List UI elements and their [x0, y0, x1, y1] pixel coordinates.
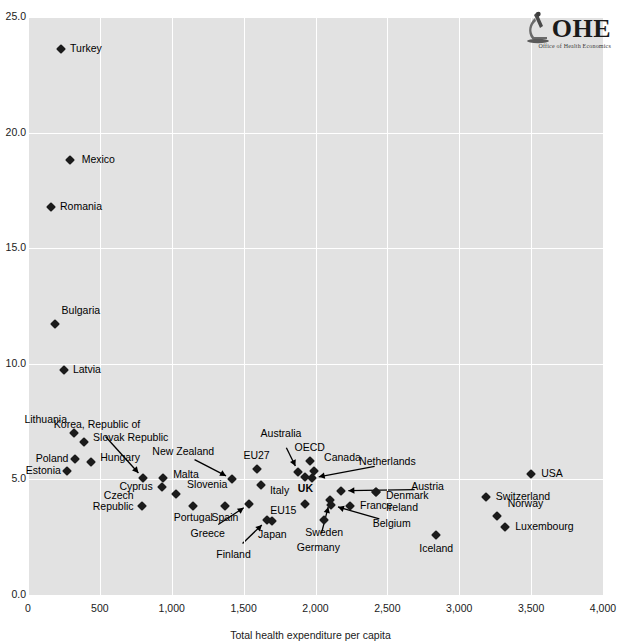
gridline-vertical: [316, 17, 317, 595]
data-point-label: New Zealand: [152, 446, 214, 458]
y-axis-tick-label: 10.0: [0, 358, 26, 369]
gridline-vertical: [28, 17, 29, 595]
data-point-marker: [56, 44, 66, 54]
gridline-horizontal: [28, 479, 603, 480]
x-axis-tick-label: 3,500: [501, 603, 561, 614]
data-point-label: Sweden: [305, 527, 343, 539]
data-point-marker: [65, 155, 75, 165]
x-axis-tick-label: 4,000: [573, 603, 621, 614]
data-point-label: Belgium: [373, 519, 411, 531]
data-point-marker: [267, 516, 277, 526]
x-axis-title: Total health expenditure per capita: [0, 629, 621, 641]
x-axis-tick-label: 1,000: [142, 603, 202, 614]
data-point-label: Spain: [212, 512, 239, 524]
data-point-label: Turkey: [70, 44, 102, 56]
label-leader-arrowhead: [319, 472, 326, 478]
gridline-horizontal: [28, 248, 603, 249]
gridline-vertical: [244, 17, 245, 595]
x-axis-tick-label: 2,500: [357, 603, 417, 614]
data-point-label: Denmark: [386, 490, 429, 502]
ohe-logo: OHE Office of Health Economics: [523, 6, 615, 50]
data-point-label: Ireland: [386, 502, 418, 514]
y-axis-tick-label: 0.0: [0, 589, 26, 600]
data-point-marker: [188, 501, 198, 511]
data-point-label: Mexico: [82, 155, 115, 167]
data-point-marker: [59, 365, 69, 375]
label-leader-line: [195, 460, 226, 476]
y-axis-tick-label: 20.0: [0, 127, 26, 138]
data-point-marker: [481, 492, 491, 502]
label-leader-arrowhead: [290, 459, 296, 466]
x-axis-tick-label: 3,000: [429, 603, 489, 614]
data-point-marker: [70, 454, 80, 464]
gridline-vertical: [459, 17, 460, 595]
data-point-label: USA: [541, 468, 563, 480]
label-leader-arrowhead: [348, 487, 354, 493]
data-point-label: EU27: [243, 450, 269, 462]
data-point-label: Australia: [261, 429, 302, 441]
data-point-label: Slovenia: [187, 480, 227, 492]
data-point-marker: [137, 501, 147, 511]
data-point-marker: [345, 501, 355, 511]
label-leader-line: [319, 466, 375, 476]
data-point-marker: [305, 456, 315, 466]
data-point-label: Latvia: [73, 364, 101, 376]
logo-wordmark: OHE: [552, 16, 611, 42]
gridline-horizontal: [28, 595, 603, 596]
data-point-label: Norway: [508, 499, 544, 511]
data-point-marker: [326, 500, 336, 510]
data-point-label: CzechRepublic: [93, 489, 134, 512]
data-point-label: Netherlands: [359, 456, 416, 468]
data-point-label: UK: [298, 483, 313, 495]
data-point-label: Bulgaria: [62, 306, 101, 318]
label-leader-arrowhead: [219, 470, 226, 476]
data-point-marker: [492, 511, 502, 521]
logo-subtitle: Office of Health Economics: [538, 43, 611, 49]
data-point-label: Portugal: [174, 512, 213, 524]
data-point-marker: [62, 466, 72, 476]
gridline-horizontal: [28, 133, 603, 134]
data-point-marker: [220, 501, 230, 511]
data-point-label: Italy: [270, 485, 289, 497]
x-axis-tick-label: 2,000: [286, 603, 346, 614]
gridline-horizontal: [28, 17, 603, 18]
data-point-label: Luxembourg: [515, 521, 573, 533]
data-point-label-line: Republic: [93, 501, 134, 513]
gridline-vertical: [172, 17, 173, 595]
data-point-label: Germany: [297, 542, 340, 554]
data-point-label: Japan: [258, 529, 287, 541]
label-leader-arrowhead: [338, 506, 345, 512]
data-point-marker: [50, 320, 60, 330]
x-axis-tick-label: 500: [70, 603, 130, 614]
data-point-marker: [500, 522, 510, 532]
label-leader-arrowhead: [132, 466, 138, 473]
data-point-marker: [79, 437, 89, 447]
gridline-vertical: [603, 17, 604, 595]
data-point-label: OECD: [295, 442, 325, 454]
data-point-marker: [319, 515, 329, 525]
data-point-marker: [252, 464, 262, 474]
data-point-marker: [158, 473, 168, 483]
y-axis-tick-label: 15.0: [0, 242, 26, 253]
y-axis-tick-label: 25.0: [0, 11, 26, 22]
data-point-label-line: Czech: [93, 489, 134, 501]
data-point-label: EU15: [270, 505, 296, 517]
data-point-marker: [431, 530, 441, 540]
microscope-icon: [523, 10, 553, 44]
data-point-label: Hungary: [100, 452, 140, 464]
data-point-marker: [256, 480, 266, 490]
data-point-marker: [46, 202, 56, 212]
data-point-marker: [300, 499, 310, 509]
data-point-marker: [157, 483, 167, 493]
gridline-horizontal: [28, 364, 603, 365]
data-point-marker: [86, 457, 96, 467]
data-point-label: Greece: [190, 528, 224, 540]
data-point-label: Finland: [216, 549, 250, 561]
data-point-label: Poland: [36, 453, 69, 465]
data-point-label: Estonia: [26, 466, 61, 478]
data-point-marker: [336, 486, 346, 496]
y-axis-tick-label: 5.0: [0, 473, 26, 484]
data-point-label: Canada: [324, 453, 361, 465]
data-point-marker: [371, 487, 381, 497]
